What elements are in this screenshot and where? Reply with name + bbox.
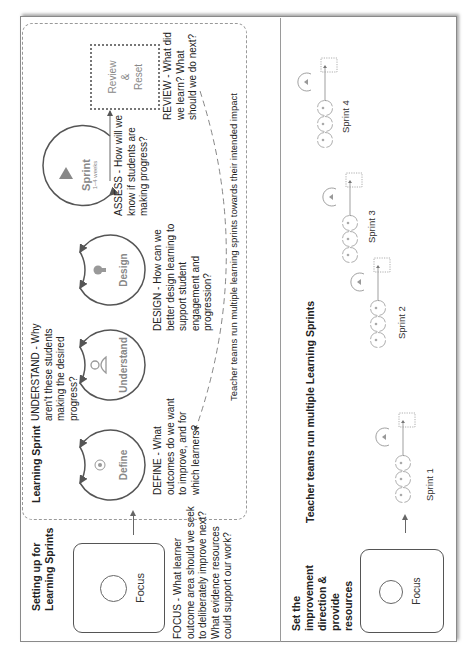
mini-sprint-3 <box>323 173 362 263</box>
sprint-2-label: Sprint 2 <box>396 306 407 339</box>
mini-sprint-2 <box>351 258 390 348</box>
sprint-1-label: Sprint 1 <box>424 468 435 501</box>
sprint-3-label: Sprint 3 <box>366 210 377 243</box>
sprint-4-label: Sprint 4 <box>340 100 351 133</box>
mini-sprint-1 <box>376 413 415 503</box>
mini-sprint-4 <box>298 58 337 148</box>
learning-sprints-diagram: Setting up for Learning Sprints Focus FO… <box>0 0 471 661</box>
